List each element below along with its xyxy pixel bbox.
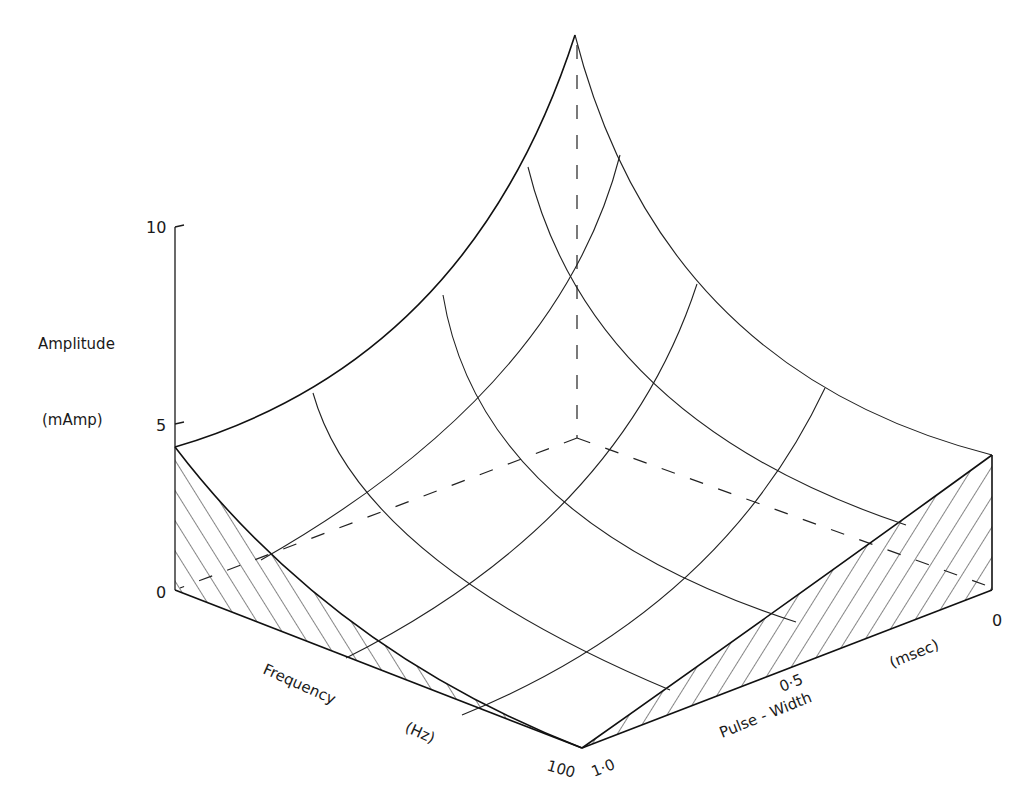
frequency-unit: (Hz)	[402, 718, 438, 747]
surface-back-right-edge	[575, 35, 992, 455]
surface-plot: 10 5 0 Amplitude (mAmp) Frequency (Hz) 1…	[0, 0, 1034, 794]
frequency-tick-100: 100	[545, 757, 577, 782]
surface-back-left-edge	[175, 35, 575, 447]
grid-line-f-2	[443, 295, 796, 622]
amplitude-unit: (mAmp)	[42, 411, 103, 429]
left-side-face	[175, 447, 582, 748]
frequency-base-edge	[175, 590, 582, 748]
hidden-frequency-axis	[180, 438, 577, 588]
tick-5	[175, 422, 184, 424]
tick-10	[175, 225, 184, 227]
grid-line-pw-2	[346, 284, 697, 658]
amplitude-label: Amplitude	[38, 335, 115, 353]
tick-label-10: 10	[146, 218, 166, 237]
pulse-width-tick-1: 1·0	[589, 755, 618, 781]
tick-label-5: 5	[156, 416, 166, 435]
frequency-label: Frequency	[260, 660, 338, 708]
grid-line-pw-1	[261, 155, 620, 560]
grid-line-f-3	[528, 167, 906, 525]
pulse-width-unit: (msec)	[887, 636, 942, 672]
pulse-width-tick-0: 0	[992, 611, 1002, 630]
pulse-width-label: Pulse - Width	[717, 688, 815, 741]
tick-label-0: 0	[156, 583, 166, 602]
